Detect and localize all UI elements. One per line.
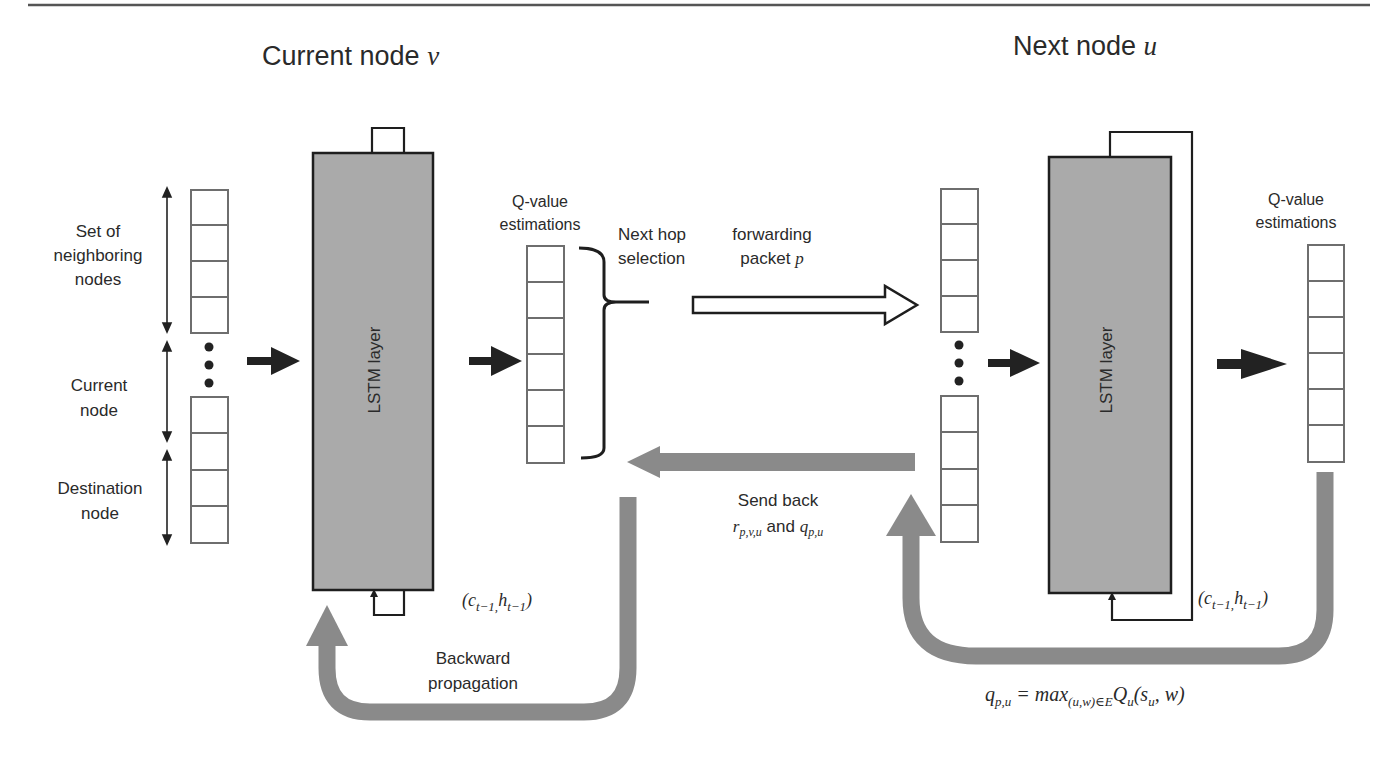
gray-arrow-left-icon <box>627 446 915 478</box>
next-input-vector <box>941 189 978 542</box>
next-hop-line2: selection <box>618 249 685 268</box>
next-q-value-vector <box>1308 245 1344 462</box>
label-destination-1: Destination <box>57 479 142 498</box>
lstm-routing-diagram: Current node v Set of neighboring nodes … <box>0 0 1399 758</box>
next-lstm-layer-label: LSTM layer <box>1097 326 1116 413</box>
arrow-right-icon <box>1217 349 1287 379</box>
label-current-2: node <box>80 401 118 420</box>
forwarding-line1: forwarding <box>732 225 811 244</box>
forwarding-line2: packet p <box>740 249 803 268</box>
next-node-panel: Next node u LSTM layer Q-value estimatio… <box>941 31 1344 620</box>
forwarding-packet-arrow: forwarding packet p <box>693 225 917 324</box>
label-neighbors-1: Set of <box>76 222 121 241</box>
input-labels: Set of neighboring nodes Current node De… <box>54 222 143 523</box>
q-value-label-1: Q-value <box>512 193 568 210</box>
backward-line2: propagation <box>428 674 518 693</box>
ellipsis-dot-icon <box>205 343 214 352</box>
send-back-line2: rp,v,u and qp,u <box>733 517 823 539</box>
label-neighbors-2: neighboring <box>54 246 143 265</box>
next-q-value-label-2: estimations <box>1256 214 1337 231</box>
label-destination-2: node <box>81 504 119 523</box>
send-back-arrow: Send back rp,v,u and qp,u <box>627 446 915 539</box>
arrow-right-icon <box>988 349 1040 377</box>
q-value-label-2: estimations <box>500 216 581 233</box>
gray-arrow-up-icon <box>306 605 348 646</box>
lstm-layer-label: LSTM layer <box>365 326 384 413</box>
next-node-title: Next node u <box>1013 31 1157 61</box>
hollow-arrow-right-icon <box>693 286 917 324</box>
send-back-line1: Send back <box>738 491 819 510</box>
next-hop-line1: Next hop <box>618 225 686 244</box>
double-arrow-icon <box>163 188 171 544</box>
arrow-right-icon <box>247 347 300 375</box>
recurrent-state-label-right: (ct−1,ht−1) <box>1198 588 1268 612</box>
next-q-value-label-1: Q-value <box>1268 191 1324 208</box>
label-current-1: Current <box>71 376 128 395</box>
q-update-equation: qp,u = max(u,w)∈EQu(su, w) <box>985 683 1185 709</box>
brace-icon <box>579 248 649 458</box>
current-node-title: Current node v <box>262 41 439 71</box>
backward-line1: Backward <box>436 649 511 668</box>
label-neighbors-3: nodes <box>75 270 121 289</box>
current-node-panel: Current node v Set of neighboring nodes … <box>54 41 686 615</box>
input-vector <box>191 190 228 543</box>
gray-arrow-up-icon <box>886 494 936 536</box>
recurrent-state-label-left: (ct−1,ht−1) <box>462 590 532 614</box>
q-value-vector <box>527 246 564 463</box>
arrow-right-icon <box>469 346 522 376</box>
